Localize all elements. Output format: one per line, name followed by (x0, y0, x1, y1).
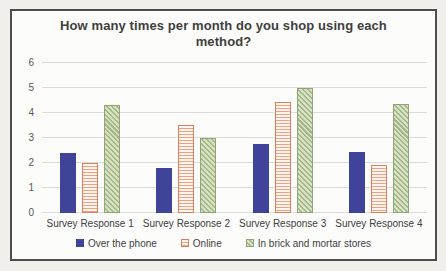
legend-label: Online (193, 238, 222, 249)
legend-label: In brick and mortar stores (258, 238, 371, 249)
legend-marker-online (181, 239, 189, 247)
legend: Over the phoneOnlineIn brick and mortar … (12, 238, 435, 249)
category-row: Survey Response 1Survey Response 2Survey… (42, 218, 427, 229)
y-axis-tick-label: 6 (16, 58, 34, 68)
bar-in-brick-and-mortar-stores (104, 105, 120, 213)
legend-label: Over the phone (88, 238, 157, 249)
category-label: Survey Response 3 (235, 218, 331, 229)
bar-group (42, 63, 138, 213)
y-axis-tick-label: 1 (16, 183, 34, 193)
bar-group (331, 63, 427, 213)
legend-marker-in-brick-and-mortar-stores (246, 239, 254, 247)
bar-online (82, 163, 98, 213)
y-axis-tick-label: 5 (16, 83, 34, 93)
bar-over-the-phone (60, 153, 76, 213)
plot-area: 0123456 (42, 63, 427, 213)
y-axis-tick-label: 3 (16, 133, 34, 143)
bar-in-brick-and-mortar-stores (297, 88, 313, 213)
bar-in-brick-and-mortar-stores (200, 138, 216, 213)
bar-in-brick-and-mortar-stores (393, 104, 409, 213)
bar-over-the-phone (253, 144, 269, 213)
category-label: Survey Response 2 (138, 218, 234, 229)
bar-over-the-phone (156, 168, 172, 213)
bar-online (275, 102, 291, 213)
category-label: Survey Response 4 (331, 218, 427, 229)
legend-marker-over-the-phone (76, 239, 84, 247)
scanned-page-background: { "page": { "background_color": "#F1F0ED… (0, 0, 446, 271)
chart-frame: How many times per month do you shop usi… (10, 9, 437, 261)
bar-group (138, 63, 234, 213)
bar-groups (42, 63, 427, 213)
chart-title: How many times per month do you shop usi… (56, 18, 392, 51)
y-axis-tick-label: 0 (16, 208, 34, 218)
legend-item: In brick and mortar stores (246, 238, 371, 249)
legend-item: Over the phone (76, 238, 157, 249)
y-axis-tick-label: 4 (16, 108, 34, 118)
bar-group (235, 63, 331, 213)
bar-online (371, 165, 387, 213)
bar-over-the-phone (349, 152, 365, 213)
legend-item: Online (181, 238, 222, 249)
bar-online (178, 125, 194, 213)
y-axis-tick-label: 2 (16, 158, 34, 168)
category-label: Survey Response 1 (42, 218, 138, 229)
